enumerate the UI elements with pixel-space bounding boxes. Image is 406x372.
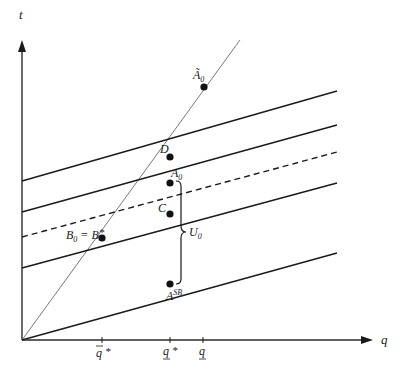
x-axis-label: q	[381, 332, 388, 347]
point-labels: Ã0 D A0 C B0 = B* ASB U0	[66, 68, 204, 303]
diagram-canvas: t q q * q * q Ã0 D A0 C B0 = B* ASB U0	[0, 0, 406, 372]
label-u0: U0	[189, 225, 202, 241]
tick-label-star-2: *	[172, 344, 178, 356]
diagonal-line	[22, 40, 240, 340]
axes	[18, 40, 373, 344]
point-c	[166, 210, 173, 217]
line-2	[22, 125, 337, 212]
x-axis-arrow-icon	[361, 336, 373, 344]
line-1	[22, 91, 337, 181]
label-c: C	[158, 201, 167, 215]
label-d: D	[159, 142, 169, 156]
point-a0-tilde	[200, 83, 207, 90]
points	[98, 83, 207, 287]
point-asb	[166, 280, 173, 287]
indifference-lines	[22, 91, 337, 340]
point-a0	[166, 179, 173, 186]
label-b0: B0 = B*	[66, 226, 105, 244]
brace-u0	[176, 181, 186, 284]
tick-labels: q * q * q	[96, 344, 206, 360]
y-axis-label: t	[19, 7, 23, 22]
tick-label-qbar-star: q	[96, 346, 102, 360]
y-axis-arrow-icon	[18, 40, 26, 52]
tick-label-qunder: q	[199, 344, 205, 358]
label-a0-tilde: Ã0	[192, 68, 204, 84]
tick-label-star: *	[105, 345, 111, 357]
label-asb: ASB	[165, 288, 182, 303]
line-3-dashed	[22, 152, 337, 237]
line-4	[22, 183, 337, 268]
tick-label-qunder-star: q	[163, 344, 169, 358]
